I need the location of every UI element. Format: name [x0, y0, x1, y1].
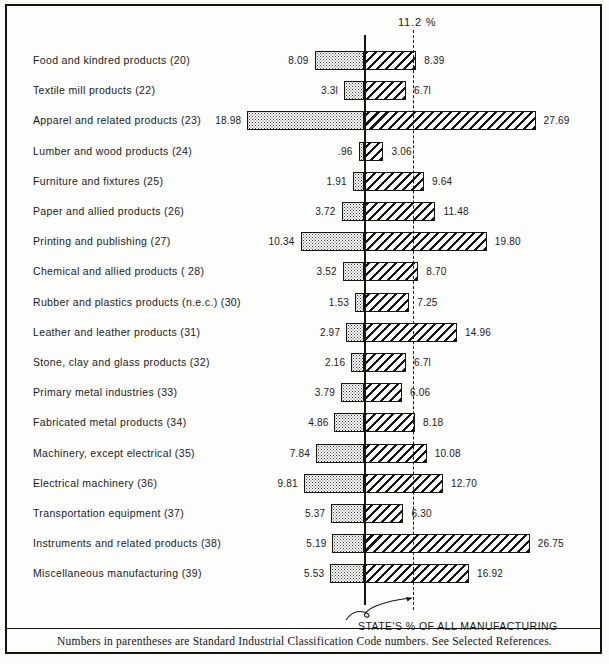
- left-value-label: 5.53: [268, 568, 324, 579]
- left-value-label: 1.53: [293, 297, 349, 308]
- bar-left: [304, 474, 365, 493]
- chart-row: Electrical machinery (36)9.8112.70: [0, 469, 609, 499]
- chart-row: Food and kindred products (20)8.098.39: [0, 46, 609, 76]
- left-value-label: 18.98: [185, 115, 241, 126]
- category-label: Lumber and wood products (24): [33, 145, 265, 157]
- state-average-value-label: 11.2 %: [398, 16, 436, 28]
- category-label: Food and kindred products (20): [33, 54, 265, 66]
- bar-right: [365, 323, 457, 342]
- bar-right: [365, 383, 402, 402]
- bar-left: [315, 51, 365, 70]
- left-value-label: 5.19: [270, 538, 326, 549]
- category-label: Transportation equipment (37): [33, 507, 265, 519]
- chart-row: Furniture and fixtures (25)1.919.64: [0, 167, 609, 197]
- right-value-label: 10.08: [435, 448, 461, 459]
- category-label: Stone, clay and glass products (32): [33, 356, 265, 368]
- left-value-label: 5.37: [269, 508, 325, 519]
- bar-left: [346, 323, 364, 342]
- plot-area: Food and kindred products (20)8.098.39Te…: [0, 0, 609, 664]
- state-average-dashed-line: [413, 30, 414, 610]
- bar-right: [365, 474, 443, 493]
- bar-left: [334, 413, 364, 432]
- chart-row: Rubber and plastics products (n.e.c.) (3…: [0, 288, 609, 318]
- bar-right: [365, 564, 470, 583]
- bar-left: [343, 262, 365, 281]
- left-value-label: 1.91: [291, 176, 347, 187]
- left-value-label: 2.97: [284, 327, 340, 338]
- left-value-label: 4.86: [272, 417, 328, 428]
- left-value-label: 3.3l: [282, 85, 338, 96]
- chart-row: Miscellaneous manufacturing (39)5.5316.9…: [0, 559, 609, 589]
- figure-container: Food and kindred products (20)8.098.39Te…: [0, 0, 609, 664]
- right-value-label: 6.7l: [414, 85, 431, 96]
- chart-row: Machinery, except electrical (35)7.8410.…: [0, 439, 609, 469]
- chart-row: Textile mill products (22)3.3l6.7l: [0, 76, 609, 106]
- bar-right: [365, 172, 425, 191]
- left-value-label: 10.34: [239, 236, 295, 247]
- left-value-label: 8.09: [253, 55, 309, 66]
- right-value-label: 16.92: [477, 568, 503, 579]
- annotation-text: STATE'S % OF ALL MANUFACTURING: [358, 620, 558, 632]
- bar-left: [316, 444, 364, 463]
- category-label: Furniture and fixtures (25): [33, 175, 265, 187]
- left-value-label: 2.16: [289, 357, 345, 368]
- right-value-label: 11.48: [443, 206, 468, 217]
- right-value-label: 3.06: [391, 146, 411, 157]
- right-value-label: 9.64: [432, 176, 452, 187]
- bar-right: [365, 293, 410, 312]
- right-value-label: 8.39: [424, 55, 444, 66]
- category-label: Instruments and related products (38): [33, 537, 265, 549]
- bar-right: [365, 232, 487, 251]
- category-label: Rubber and plastics products (n.e.c.) (3…: [33, 296, 265, 308]
- left-value-label: 3.52: [281, 266, 337, 277]
- category-label: Primary metal industries (33): [33, 386, 265, 398]
- bar-right: [365, 202, 436, 221]
- right-value-label: 7.25: [417, 297, 437, 308]
- chart-row: Apparel and related products (23)18.9827…: [0, 106, 609, 136]
- category-label: Leather and leather products (31): [33, 326, 265, 338]
- bar-right: [365, 142, 384, 161]
- bar-right: [365, 444, 427, 463]
- bar-right: [365, 51, 417, 70]
- bar-right: [365, 534, 530, 553]
- left-value-label: .96: [297, 146, 353, 157]
- chart-row: Primary metal industries (33)3.796.06: [0, 378, 609, 408]
- bar-left: [351, 353, 364, 372]
- right-value-label: 6.7l: [414, 357, 431, 368]
- right-value-label: 8.70: [426, 266, 446, 277]
- bar-left: [331, 504, 364, 523]
- right-value-label: 19.80: [495, 236, 521, 247]
- chart-row: Instruments and related products (38)5.1…: [0, 529, 609, 559]
- bar-left: [344, 81, 364, 100]
- chart-row: Chemical and allied products ( 28)3.528.…: [0, 257, 609, 287]
- bar-left: [353, 172, 365, 191]
- chart-row: Leather and leather products (31)2.9714.…: [0, 318, 609, 348]
- category-label: Chemical and allied products ( 28): [33, 265, 265, 277]
- right-value-label: 27.69: [544, 115, 570, 126]
- category-label: Printing and publishing (27): [33, 235, 265, 247]
- category-label: Miscellaneous manufacturing (39): [33, 567, 265, 579]
- right-value-label: 14.96: [465, 327, 491, 338]
- bar-right: [365, 413, 416, 432]
- bar-left: [247, 111, 364, 130]
- bar-left: [342, 202, 365, 221]
- category-label: Fabricated metal products (34): [33, 416, 265, 428]
- footnote-text: Numbers in parentheses are Standard Indu…: [0, 635, 609, 647]
- left-value-label: 7.84: [254, 448, 310, 459]
- category-label: Paper and allied products (26): [33, 205, 265, 217]
- zero-axis-line: [364, 35, 366, 605]
- bar-right: [365, 81, 406, 100]
- bar-right: [365, 504, 404, 523]
- left-value-label: 3.79: [279, 387, 335, 398]
- category-label: Textile mill products (22): [33, 84, 265, 96]
- bar-right: [365, 111, 536, 130]
- chart-row: Stone, clay and glass products (32)2.166…: [0, 348, 609, 378]
- chart-row: Fabricated metal products (34)4.868.18: [0, 408, 609, 438]
- category-label: Machinery, except electrical (35): [33, 447, 265, 459]
- left-value-label: 9.81: [242, 478, 298, 489]
- right-value-label: 8.18: [423, 417, 443, 428]
- chart-row: Paper and allied products (26)3.7211.48: [0, 197, 609, 227]
- right-value-label: 12.70: [451, 478, 477, 489]
- category-label: Electrical machinery (36): [33, 477, 265, 489]
- bar-left: [330, 564, 364, 583]
